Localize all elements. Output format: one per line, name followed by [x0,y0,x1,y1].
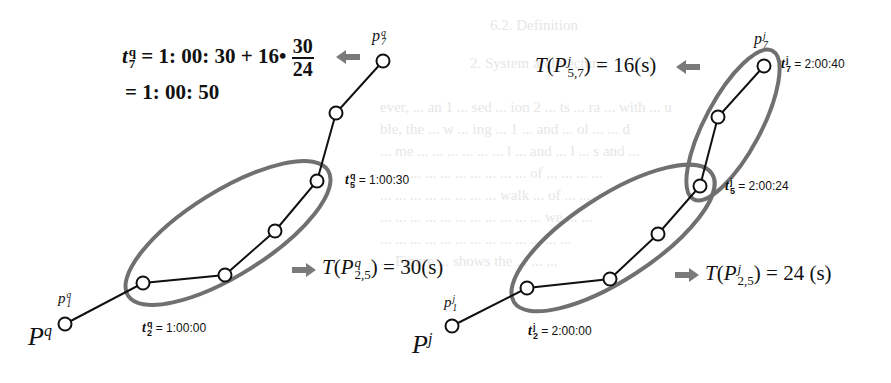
formula-t7-q-result: = 1: 00: 50 [125,80,219,105]
arrow-left-icon [336,50,360,64]
formula-t7-q: tq7 = 1: 00: 30 + 16• 3024 [122,36,314,80]
trajectory-name-q: Pq [28,322,52,352]
duration-label-q-2-5: T(Pq2,5) = 30(s) [322,255,443,282]
time-label-t2-j: tj2 = 2:00:00 [528,323,592,340]
point-label-p7-j: pj7 [754,30,768,50]
trajectory-name-j: Pj [412,330,432,360]
arrow-right-icon [292,263,316,277]
duration-label-j-5-7: T(Pj5,7) = 16(s) [535,53,656,80]
segment-ellipse-q-2-5 [106,135,351,331]
arrow-left-icon [676,60,700,74]
time-label-t7-j: tj7 = 2:00:40 [781,56,845,73]
fraction: 3024 [292,36,314,80]
segment-ellipse-j-2-5 [491,139,735,338]
point-label-p1-j: pj1 [444,294,457,312]
time-label-t2-q: tq2 = 1:00:00 [142,320,206,337]
point-label-p1-q: pq1 [58,290,71,308]
point-label-p7-q: pq7 [372,27,386,47]
arrows [292,50,700,282]
time-label-t5-q: tq5 = 1:00:30 [345,172,409,189]
trajectory-nodes-q [59,55,390,331]
duration-label-j-2-5: T(Pj2,5) = 24 (s) [705,261,832,288]
arrow-right-icon [675,268,699,282]
time-label-t5-j: tj5 = 2:00:24 [725,178,789,195]
